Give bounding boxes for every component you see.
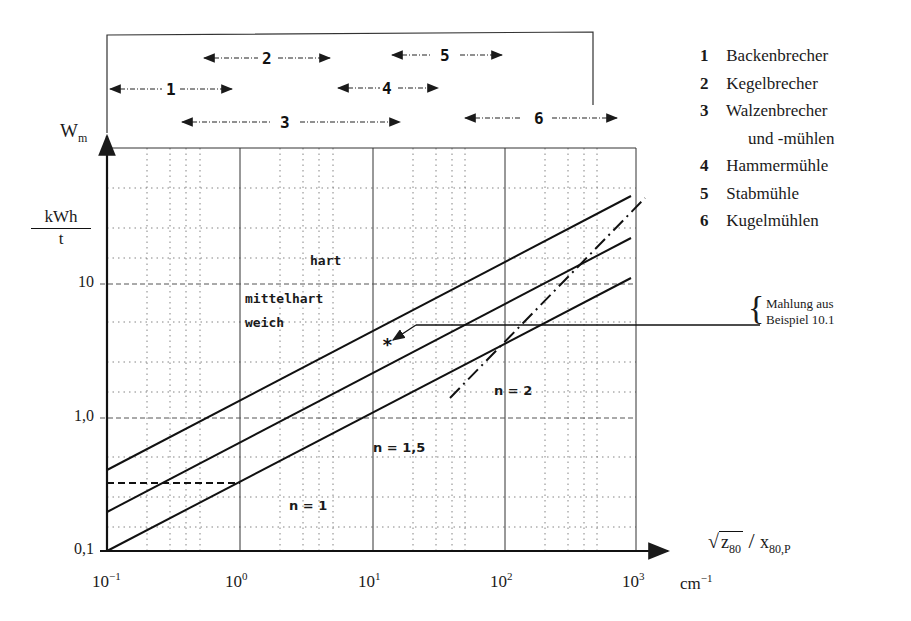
asterisk-marker: * [382,334,393,355]
y-tick-10: 10 [34,273,94,291]
label-weich: weich [245,315,284,330]
range-label-2: 2 [262,49,272,68]
x-axis-title: √z80 / x80,P [708,528,791,557]
range-label-1: 1 [166,80,176,99]
legend-item-2: 2 Kegelbrecher [700,70,834,98]
legend-item-1: 1 Backenbrecher [700,42,834,70]
y-tick-0-1: 0,1 [34,540,94,558]
x-tick-1: 100 [225,570,248,592]
label-n2: n = 2 [494,383,532,398]
x-tick-2: 101 [358,570,381,592]
range-label-3: 3 [280,113,290,132]
major-grid [100,148,636,551]
series-lines [107,196,645,551]
minor-grid [107,148,636,551]
label-n15: n = 1,5 [373,440,425,455]
label-n1: n = 1 [289,498,327,513]
annotation-line-1: Mahlung aus [766,296,835,312]
label-hart: hart [310,253,341,268]
annotation-marker [393,325,760,340]
label-mittelhart: mittelhart [245,291,323,306]
legend-item-3: 3 Walzenbrecher [700,97,834,125]
x-tick-3: 102 [490,570,513,592]
legend-item-3-cont: und -mühlen [700,125,834,153]
y-axis-title: Wm [60,120,87,146]
x-tick-0: 10−1 [92,570,121,592]
x-unit: cm−1 [680,572,713,594]
annotation-brace: { [748,291,764,325]
range-label-5: 5 [440,46,450,65]
annotation-line-2: Beispiel 10.1 [766,312,835,328]
legend-item-5: 5 Stabmühle [700,180,834,208]
annotation-text: Mahlung aus Beispiel 10.1 [766,296,835,328]
legend: 1 Backenbrecher 2 Kegelbrecher 3 Walzenb… [700,42,834,235]
x-tick-4: 103 [622,570,645,592]
y-tick-1: 1,0 [34,407,94,425]
range-label-6: 6 [534,109,544,128]
legend-item-4: 4 Hammermühle [700,152,834,180]
y-axis-unit: kWh t [31,207,91,249]
legend-item-6: 6 Kugelmühlen [700,207,834,235]
range-frame [107,32,593,133]
range-label-4: 4 [382,79,392,98]
